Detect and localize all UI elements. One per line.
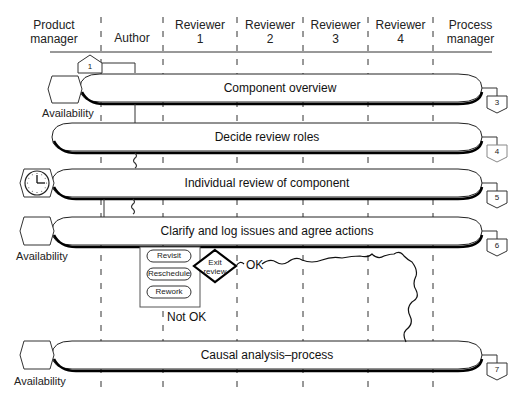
step-number-5: 5	[492, 193, 502, 202]
exit-review-label: Exit review	[198, 258, 232, 276]
process-diagram-canvas	[0, 0, 525, 402]
lane-header-reviewer-2: Reviewer 2	[237, 18, 303, 46]
lane-label-line1: Reviewer	[303, 18, 368, 32]
lane-header-process-manager: Process manager	[433, 18, 508, 46]
availability-label-2: Availability	[16, 250, 68, 262]
availability-label-1: Availability	[42, 107, 94, 119]
not-ok-label: Not OK	[167, 310, 206, 324]
lane-label-line2: 3	[303, 32, 368, 46]
lane-label-line2: manager	[14, 32, 94, 46]
lane-label-line2: 1	[163, 32, 237, 46]
lane-header-reviewer-3: Reviewer 3	[303, 18, 368, 46]
lane-label-line1: Reviewer	[368, 18, 433, 32]
lane-header-author: Author	[101, 31, 163, 45]
lane-label-line2: 2	[237, 32, 303, 46]
reschedule-option-label: Reschedule	[147, 269, 191, 278]
lane-label-line2: 4	[368, 32, 433, 46]
step-markers-right	[482, 88, 507, 380]
step-number-7: 7	[492, 365, 502, 374]
lane-dividers	[101, 17, 433, 388]
clock-icon	[25, 171, 49, 195]
lane-label-line2: manager	[433, 32, 508, 46]
ok-label: OK	[246, 258, 263, 272]
lane-label-line1: Process	[433, 18, 508, 32]
step-number-4: 4	[492, 147, 502, 156]
step-number-3: 3	[492, 98, 502, 107]
step-label-decide-review-roles: Decide review roles	[52, 130, 482, 144]
lane-header-reviewer-4: Reviewer 4	[368, 18, 433, 46]
availability-hexagon-2	[20, 217, 54, 245]
lane-label-line1: Reviewer	[237, 18, 303, 32]
exit-review-line1: Exit	[198, 258, 232, 267]
step-label-component-overview: Component overview	[80, 81, 480, 95]
lane-header-product-manager: Product manager	[14, 18, 94, 46]
lane-header-reviewer-1: Reviewer 1	[163, 18, 237, 46]
rework-option-label: Rework	[147, 287, 191, 296]
lane-label-line1: Reviewer	[163, 18, 237, 32]
step-label-causal-analysis: Causal analysis–process	[52, 348, 482, 362]
availability-label-3: Availability	[14, 375, 66, 387]
step-number-1: 1	[85, 62, 95, 71]
lane-label-line1: Product	[14, 18, 94, 32]
exit-review-line2: review	[198, 267, 232, 276]
step-label-individual-review: Individual review of component	[52, 176, 482, 190]
step-number-6: 6	[492, 241, 502, 250]
lane-label-line1: Author	[101, 31, 163, 45]
availability-hexagon-3	[20, 341, 54, 369]
step-label-clarify-issues: Clarify and log issues and agree actions	[52, 224, 482, 238]
availability-hexagon-1	[48, 76, 82, 103]
revisit-option-label: Revisit	[147, 251, 191, 260]
